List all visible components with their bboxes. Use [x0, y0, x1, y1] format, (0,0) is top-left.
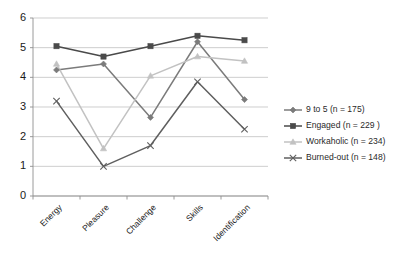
y-axis-tick-label: 4 — [20, 70, 26, 82]
legend-item-label: Engaged (n = 229 ) — [306, 120, 380, 130]
data-point-marker-3-0 — [53, 98, 59, 104]
x-axis-category-label: Skills — [184, 202, 205, 223]
y-axis-tick-label: 3 — [20, 100, 26, 112]
chart-figure: 6543210 EnergyPleasureChallengeSkillsIde… — [0, 0, 406, 259]
data-point-marker-1-1 — [101, 54, 106, 59]
x-axis-category-labels: EnergyPleasureChallengeSkillsIdentificat… — [38, 202, 252, 243]
series-markers — [53, 33, 247, 169]
data-point-marker-1-3 — [195, 33, 200, 38]
legend-item-label: Workaholic (n = 234) — [306, 136, 386, 146]
chart-legend: 9 to 5 (n = 175)Engaged (n = 229 )Workah… — [284, 104, 386, 162]
data-point-marker-1-4 — [242, 38, 247, 43]
data-point-marker-1-2 — [148, 44, 153, 49]
series-line-2 — [57, 57, 245, 149]
data-point-marker-1-0 — [54, 44, 59, 49]
data-point-marker-3-4 — [241, 126, 247, 132]
y-axis-tick-labels: 6543210 — [20, 11, 26, 201]
y-axis-tick-label: 2 — [20, 130, 26, 142]
data-point-marker-3-3 — [194, 79, 200, 85]
data-point-marker-3-2 — [147, 142, 153, 148]
y-axis-tick-label: 5 — [20, 41, 26, 53]
data-point-marker-legend-0 — [290, 107, 296, 113]
line-chart: 6543210 EnergyPleasureChallengeSkillsIde… — [0, 0, 406, 259]
y-axis-tick-label: 1 — [20, 159, 26, 171]
x-axis-category-label: Identification — [211, 202, 252, 243]
x-axis-category-label: Challenge — [124, 202, 158, 236]
x-axis-category-label: Pleasure — [80, 202, 111, 233]
series-lines — [57, 36, 245, 167]
data-point-marker-2-0 — [53, 61, 59, 67]
data-point-marker-legend-1 — [290, 123, 295, 128]
x-axis-category-label: Energy — [38, 202, 65, 229]
series-line-3 — [57, 82, 245, 167]
legend-item-label: Burned-out (n = 148) — [306, 152, 386, 162]
y-axis-tick-label: 0 — [20, 189, 26, 201]
legend-item-label: 9 to 5 (n = 175) — [306, 104, 365, 114]
y-axis-tick-label: 6 — [20, 11, 26, 23]
